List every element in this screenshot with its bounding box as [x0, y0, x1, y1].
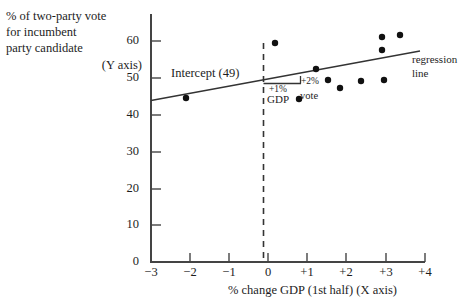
- chart-figure: % of two-party vote for incumbent party …: [0, 0, 468, 308]
- data-point: [381, 77, 387, 83]
- data-point: [358, 78, 364, 84]
- scatter-points: [183, 32, 403, 102]
- chart-canvas: [0, 0, 468, 308]
- data-point: [183, 95, 189, 101]
- data-point: [296, 96, 302, 102]
- regression-line: [151, 51, 420, 101]
- data-point: [272, 40, 278, 46]
- data-point: [313, 66, 319, 72]
- data-point: [397, 32, 403, 38]
- x-axis-ticks: [190, 253, 425, 262]
- data-point: [325, 77, 331, 83]
- data-point: [379, 34, 385, 40]
- data-point: [337, 85, 343, 91]
- slope-triangle: [264, 76, 302, 84]
- data-point: [379, 47, 385, 53]
- y-axis-ticks: [151, 41, 161, 225]
